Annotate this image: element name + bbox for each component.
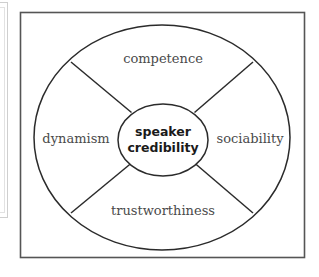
segment-label-sociability: sociability <box>216 131 284 146</box>
segment-label-trustworthiness: trustworthiness <box>111 203 215 218</box>
segment-label-competence: competence <box>123 51 203 66</box>
center-label-line2: credibility <box>127 140 198 155</box>
speaker-credibility-wheel-diagram: competence sociability trustworthiness d… <box>0 0 319 277</box>
segment-label-dynamism: dynamism <box>42 131 109 146</box>
figure-canvas: competence sociability trustworthiness d… <box>0 0 319 277</box>
center-label-line1: speaker <box>135 124 192 139</box>
